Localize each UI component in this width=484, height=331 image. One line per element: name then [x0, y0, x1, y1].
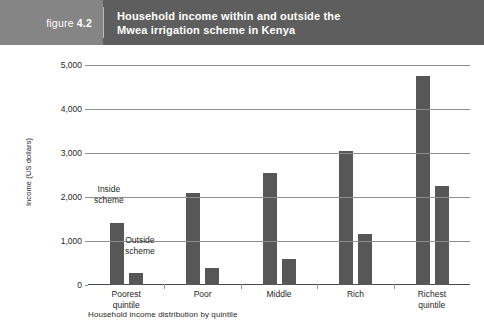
figure-title-line-2: Mwea irrigation scheme in Kenya	[117, 23, 484, 37]
bar-inside-scheme	[339, 151, 353, 285]
x-tick-label-line: quintile	[394, 300, 470, 311]
y-axis-title: Income (US dollars)	[24, 0, 33, 107]
y-tick-mark	[85, 241, 88, 242]
bar-outside-scheme	[282, 259, 296, 285]
annotation-outside-line-1: Outside	[125, 235, 155, 246]
figure-title-line-1: Household income within and outside the	[117, 9, 484, 23]
y-tick-mark	[85, 285, 88, 286]
y-tick-mark	[85, 65, 88, 66]
figure-number: 4.2	[77, 17, 92, 29]
gridline	[88, 109, 470, 110]
x-axis-separator	[394, 284, 395, 289]
bar-outside-scheme	[435, 186, 449, 285]
figure-tag-text: figure 4.2	[46, 17, 92, 29]
x-tick-label-line: Richest	[394, 289, 470, 300]
x-tick-label-line: Poorest	[88, 289, 164, 300]
figure-tag: figure 4.2	[0, 0, 103, 45]
gridline	[88, 153, 470, 154]
bar-inside-scheme	[110, 223, 124, 285]
x-tick-label: Poor	[164, 289, 240, 300]
x-axis-separator	[317, 284, 318, 289]
y-tick-label: 3,000	[61, 148, 82, 158]
gridline	[88, 197, 470, 198]
bar-group: Richestquintile	[394, 65, 470, 285]
annotation-outside-line-2: scheme	[125, 246, 155, 257]
bar-group: Poor	[164, 65, 240, 285]
y-tick-label: 5,000	[61, 60, 82, 70]
x-tick-label-line: Rich	[317, 289, 393, 300]
gridline	[88, 65, 470, 66]
annotation-outside-scheme: Outside scheme	[125, 235, 155, 257]
x-tick-label: Richestquintile	[394, 289, 470, 311]
x-tick-label-line: Middle	[241, 289, 317, 300]
y-axis-title-text: Income (US dollars)	[24, 107, 33, 237]
chart-area: Income (US dollars) PoorestquintilePoorM…	[0, 45, 484, 331]
bar-outside-scheme	[129, 273, 143, 285]
y-tick-label: 0	[77, 280, 82, 290]
annotation-inside-line-2: scheme	[94, 195, 124, 206]
x-axis-caption: Household income distribution by quintil…	[88, 310, 238, 319]
bar-group: Rich	[317, 65, 393, 285]
x-axis-separator	[241, 284, 242, 289]
y-tick-mark	[85, 109, 88, 110]
figure-word: figure	[46, 17, 73, 29]
y-tick-label: 1,000	[61, 236, 82, 246]
y-tick-mark	[85, 153, 88, 154]
y-tick-mark	[85, 197, 88, 198]
bar-outside-scheme	[205, 268, 219, 285]
y-tick-label: 2,000	[61, 192, 82, 202]
x-tick-label: Rich	[317, 289, 393, 300]
annotation-inside-line-1: Inside	[94, 184, 124, 195]
figure-title: Household income within and outside the …	[104, 0, 484, 45]
x-tick-label-line: Poor	[164, 289, 240, 300]
figure-banner: figure 4.2 Household income within and o…	[0, 0, 484, 45]
x-axis-separator	[164, 284, 165, 289]
x-tick-label: Middle	[241, 289, 317, 300]
y-tick-label: 4,000	[61, 104, 82, 114]
bar-inside-scheme	[416, 76, 430, 285]
annotation-inside-scheme: Inside scheme	[94, 184, 124, 206]
x-tick-label: Poorestquintile	[88, 289, 164, 311]
bar-inside-scheme	[186, 193, 200, 285]
bar-group: Middle	[241, 65, 317, 285]
bar-inside-scheme	[263, 173, 277, 285]
